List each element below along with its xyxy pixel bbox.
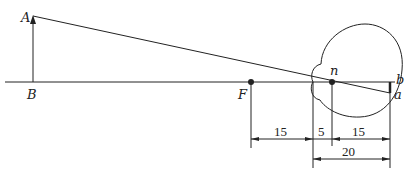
label-B: B	[27, 88, 37, 101]
eye-outline	[311, 24, 402, 117]
dim-front-to-retina: 20	[342, 145, 355, 158]
dim-front-to-n: 5	[318, 125, 325, 138]
label-n: n	[330, 64, 338, 77]
light-ray	[33, 16, 390, 93]
dim-n-to-retina: 15	[352, 125, 365, 138]
label-F: F	[238, 88, 247, 101]
label-A: A	[21, 11, 30, 24]
dim-F-to-front: 15	[274, 125, 287, 138]
label-b: b	[396, 73, 404, 86]
label-a: a	[394, 88, 402, 101]
